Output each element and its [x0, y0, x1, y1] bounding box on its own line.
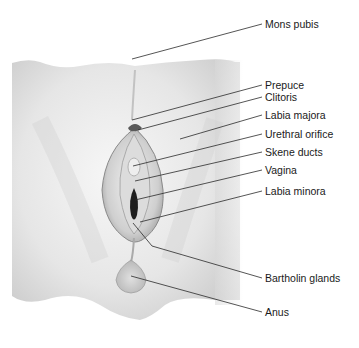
label-prepuce: Prepuce — [265, 79, 304, 91]
label-skene-ducts: Skene ducts — [265, 146, 323, 158]
label-urethral-orifice: Urethral orifice — [265, 128, 333, 140]
label-clitoris: Clitoris — [265, 91, 297, 103]
vulva-anatomy-diagram: Mons pubis Prepuce Clitoris Labia majora… — [0, 0, 359, 348]
label-labia-minora: Labia minora — [265, 185, 326, 197]
anatomy-illustration — [0, 0, 359, 348]
label-vagina: Vagina — [265, 164, 297, 176]
label-labia-majora: Labia majora — [265, 109, 326, 121]
label-mons-pubis: Mons pubis — [265, 18, 319, 30]
label-anus: Anus — [265, 306, 289, 318]
label-bartholin-glands: Bartholin glands — [265, 272, 340, 284]
